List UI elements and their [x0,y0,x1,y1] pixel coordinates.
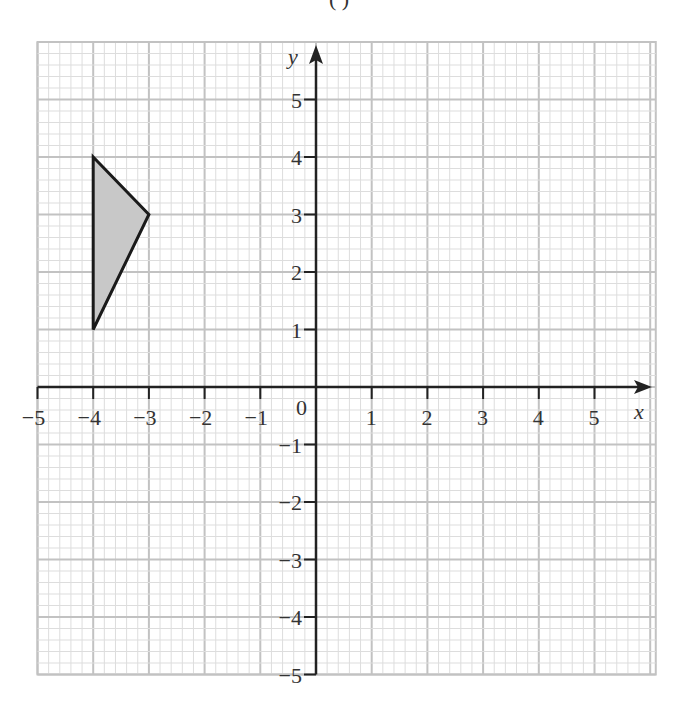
y-tick-label: −1 [279,433,302,458]
y-tick-label: 5 [291,88,302,113]
x-tick-label: −2 [189,405,212,430]
x-tick-label: −3 [133,405,156,430]
y-tick-label: 2 [291,260,302,285]
x-tick-label: −4 [77,405,100,430]
graph-paper-grid [38,42,656,675]
x-tick-label: −1 [245,405,268,430]
x-tick-label: 3 [477,405,488,430]
y-tick-label: 1 [291,318,302,343]
origin-label: 0 [296,395,307,420]
coordinate-grid-diagram: −5−4−3−2−11234554321−1−2−3−4−50xy ( ) [0,0,678,707]
x-tick-label: 2 [421,405,432,430]
y-tick-label: −4 [279,605,302,630]
x-tick-label: −5 [22,405,45,430]
y-tick-label: −5 [279,663,302,688]
y-axis-label: y [286,44,298,69]
y-tick-label: −3 [279,548,302,573]
x-tick-label: 4 [533,405,544,430]
y-tick-label: 4 [291,145,302,170]
x-tick-label: 1 [366,405,377,430]
y-tick-label: 3 [291,203,302,228]
y-tick-label: −2 [279,490,302,515]
part-label: ( ) [329,0,349,11]
x-tick-label: 5 [589,405,600,430]
x-axis-label: x [633,399,644,424]
grid-border [38,42,656,675]
